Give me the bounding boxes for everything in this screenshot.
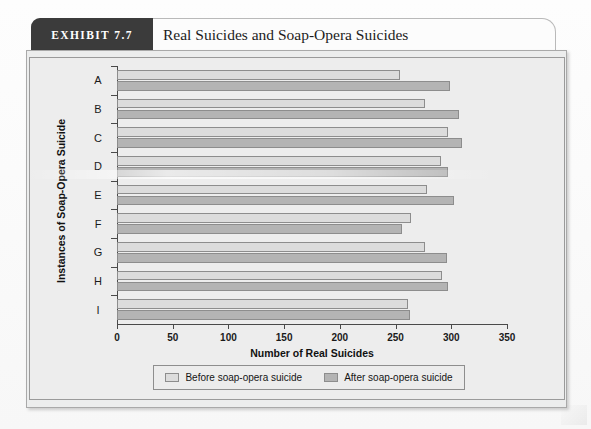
y-category-label-C: C <box>89 132 107 144</box>
x-tick-250 <box>396 324 397 329</box>
bar-I-after <box>117 310 410 320</box>
bar-F-after <box>117 224 402 234</box>
bar-G-before <box>117 242 425 252</box>
bar-A-after <box>117 81 450 91</box>
x-tick-label-200: 200 <box>332 332 349 343</box>
y-tick-A <box>111 66 117 67</box>
bar-A-before <box>117 70 400 80</box>
y-category-label-E: E <box>89 189 107 201</box>
chart-legend: Before soap-opera suicideAfter soap-oper… <box>153 365 465 390</box>
bar-E-before <box>117 185 427 195</box>
x-axis-label: Number of Real Suicides <box>117 347 507 359</box>
bar-F-before <box>117 213 411 223</box>
x-tick-200 <box>340 324 341 329</box>
bar-I-before <box>117 299 408 309</box>
legend-item: Before soap-opera suicide <box>165 372 302 383</box>
legend-label: Before soap-opera suicide <box>185 372 302 383</box>
x-tick-150 <box>284 324 285 329</box>
y-tick-F <box>111 209 117 210</box>
x-tick-300 <box>451 324 452 329</box>
legend-swatch-before <box>165 373 179 382</box>
x-tick-label-100: 100 <box>220 332 237 343</box>
y-tick-C <box>111 123 117 124</box>
y-tick-G <box>111 238 117 239</box>
bar-G-after <box>117 253 447 263</box>
bar-C-after <box>117 138 462 148</box>
y-tick-D <box>111 152 117 153</box>
y-category-label-G: G <box>89 246 107 258</box>
exhibit-number-tab: EXHIBIT 7.7 <box>31 18 153 51</box>
x-tick-label-300: 300 <box>443 332 460 343</box>
chart-panel: Instances of Soap-Opera Suicide 05010015… <box>26 50 567 408</box>
bar-H-after <box>117 282 448 292</box>
bar-C-before <box>117 127 448 137</box>
bar-D-before <box>117 156 441 166</box>
y-category-label-F: F <box>89 218 107 230</box>
x-tick-label-150: 150 <box>276 332 293 343</box>
x-tick-label-50: 50 <box>167 332 178 343</box>
y-axis-label: Instances of Soap-Opera Suicide <box>55 91 67 311</box>
y-category-label-D: D <box>89 160 107 172</box>
exhibit-title: Real Suicides and Soap-Opera Suicides <box>163 18 408 51</box>
bar-D-after <box>117 167 448 177</box>
y-tick-E <box>111 181 117 182</box>
bar-E-after <box>117 196 454 206</box>
y-category-label-A: A <box>89 74 107 86</box>
legend-label: After soap-opera suicide <box>344 372 452 383</box>
scanned-page: EXHIBIT 7.7 Real Suicides and Soap-Opera… <box>0 0 591 429</box>
x-tick-label-0: 0 <box>114 332 120 343</box>
y-tick-B <box>111 95 117 96</box>
exhibit-number-label: EXHIBIT 7.7 <box>51 29 133 41</box>
bar-B-before <box>117 99 425 109</box>
y-category-label-I: I <box>89 304 107 316</box>
y-category-label-H: H <box>89 275 107 287</box>
y-category-label-B: B <box>89 103 107 115</box>
x-tick-50 <box>173 324 174 329</box>
x-tick-label-350: 350 <box>499 332 516 343</box>
x-axis-line <box>117 324 507 325</box>
legend-item: After soap-opera suicide <box>324 372 452 383</box>
bar-H-before <box>117 271 442 281</box>
legend-swatch-after <box>324 373 338 382</box>
x-tick-350 <box>507 324 508 329</box>
x-tick-label-250: 250 <box>387 332 404 343</box>
x-tick-100 <box>228 324 229 329</box>
bar-B-after <box>117 110 459 120</box>
y-tick-H <box>111 267 117 268</box>
x-tick-0 <box>117 324 118 329</box>
y-tick-I <box>111 295 117 296</box>
